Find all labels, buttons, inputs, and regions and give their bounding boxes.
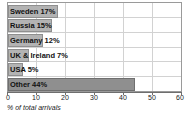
- x-tick-label-40: 40: [119, 94, 127, 101]
- x-tick-label-50: 50: [148, 94, 156, 101]
- x-tick-label-0: 0: [6, 94, 10, 101]
- bar-label-usa: USA 5%: [10, 63, 38, 76]
- x-tick-label-20: 20: [61, 94, 69, 101]
- x-axis-label: % of total arrivals: [7, 104, 61, 111]
- bar-label-uk-ireland: UK & Ireland 7%: [10, 49, 68, 62]
- x-tick-label-60: 60: [176, 94, 184, 101]
- plot-area: Sweden 17% Russia 15% Germany 12% UK & I…: [7, 2, 182, 92]
- x-tick-label-30: 30: [90, 94, 98, 101]
- bar-label-other: Other 44%: [10, 78, 47, 91]
- bar-rows: Sweden 17% Russia 15% Germany 12% UK & I…: [8, 3, 181, 91]
- bar-chart: Sweden 17% Russia 15% Germany 12% UK & I…: [0, 0, 189, 118]
- bar-label-russia: Russia 15%: [10, 19, 52, 32]
- bar-label-germany: Germany 12%: [10, 34, 60, 47]
- x-tick-label-10: 10: [32, 94, 40, 101]
- bar-label-sweden: Sweden 17%: [10, 5, 55, 18]
